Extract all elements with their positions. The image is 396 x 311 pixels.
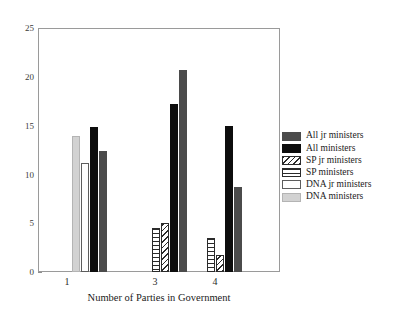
- chart-legend: All jr ministers All ministers SP jr min…: [282, 130, 394, 203]
- legend-label: SP jr ministers: [306, 156, 362, 166]
- y-tick-label: 5: [4, 218, 34, 228]
- bar-sp_ministers-3: [152, 228, 160, 272]
- legend-swatch-all-jr-ministers-icon: [282, 132, 301, 141]
- legend-item: SP jr ministers: [282, 154, 394, 166]
- legend-swatch-dna-jr-ministers-icon: [282, 180, 301, 189]
- bar-chart-figure: 25 20 15 10 5 0 1 3 4 Number of Parties …: [0, 0, 396, 311]
- bar-all_jr_ministers-1: [99, 151, 107, 273]
- x-tick-label: 3: [153, 276, 158, 287]
- bar-all_jr_ministers-4: [234, 187, 242, 272]
- bar-all_ministers-3: [170, 104, 178, 272]
- x-tick-label: 1: [65, 276, 70, 287]
- legend-label: All jr ministers: [306, 131, 364, 141]
- bar-sp_ministers-4: [207, 238, 215, 272]
- plot-area: [39, 29, 279, 272]
- y-tick-mark: [38, 272, 42, 273]
- legend-swatch-sp-ministers-icon: [282, 168, 301, 177]
- y-tick-label: 15: [4, 121, 34, 131]
- bar-sp_jr_ministers-4: [216, 255, 224, 273]
- x-axis-title: Number of Parties in Government: [39, 292, 279, 303]
- y-tick-label: 25: [4, 23, 34, 33]
- x-tick-label: 4: [213, 276, 218, 287]
- y-tick-label: 20: [4, 72, 34, 82]
- legend-label: DNA jr ministers: [306, 180, 371, 190]
- legend-label: DNA ministers: [306, 192, 363, 202]
- legend-item: All ministers: [282, 142, 394, 154]
- bar-dna_ministers-1: [72, 136, 80, 272]
- bar-all_jr_ministers-3: [179, 70, 187, 272]
- legend-item: DNA ministers: [282, 191, 394, 203]
- y-tick-label: 10: [4, 170, 34, 180]
- legend-item: DNA jr ministers: [282, 179, 394, 191]
- legend-label: SP ministers: [306, 168, 353, 178]
- bar-all_ministers-4: [225, 126, 233, 272]
- legend-item: All jr ministers: [282, 130, 394, 142]
- legend-swatch-all-ministers-icon: [282, 144, 301, 153]
- legend-swatch-sp-jr-ministers-icon: [282, 156, 301, 165]
- legend-label: All ministers: [306, 144, 355, 154]
- y-tick-label: 0: [4, 267, 34, 277]
- bar-dna_jr_ministers-1: [81, 163, 89, 272]
- bar-all_ministers-1: [90, 127, 98, 272]
- legend-swatch-dna-ministers-icon: [282, 193, 301, 202]
- legend-item: SP ministers: [282, 167, 394, 179]
- bar-sp_jr_ministers-3: [161, 223, 169, 272]
